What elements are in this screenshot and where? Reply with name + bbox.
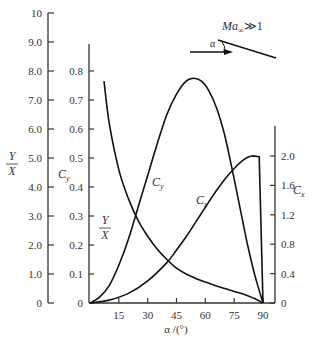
yx-tick-label: 9.0 — [28, 36, 42, 48]
cy-tick-label: 0.7 — [69, 94, 83, 106]
cx-axis: 00.40.81.21.62.0 — [270, 126, 295, 309]
yx-tick-label: 10 — [31, 7, 43, 19]
cx-tick-label: 0 — [281, 297, 287, 309]
yx-tick-label: 1.0 — [28, 268, 42, 280]
x-tick-label: 45 — [171, 309, 183, 321]
cy-tick-label: 0.6 — [69, 123, 83, 135]
x-tick-label: 30 — [142, 309, 154, 321]
svg-text:Y: Y — [9, 149, 17, 163]
cy-tick-label: 0.5 — [69, 152, 83, 164]
cy-axis-title: Cy — [58, 167, 70, 183]
cy-tick-label: 0.1 — [69, 268, 83, 280]
inset-flow-diagram: Ma∞≫1 α — [190, 19, 276, 58]
x-tick-label: 60 — [200, 309, 212, 321]
cy-tick-label: 0.2 — [69, 239, 83, 251]
cy-tick-label: 0.3 — [69, 210, 83, 222]
cy-axis: 00.10.20.30.40.50.60.70.8 — [69, 44, 94, 309]
cx-tick-label: 0.4 — [281, 268, 295, 280]
arrowhead-icon — [224, 49, 233, 55]
yx-tick-label: 0 — [37, 297, 43, 309]
yx-axis-title: Y X — [6, 149, 18, 178]
curve-cy — [90, 78, 263, 303]
x-axis-title: α /(°) — [164, 323, 188, 336]
cx-axis-title: Cx — [293, 183, 305, 199]
cy-tick-label: 0.4 — [69, 181, 83, 193]
cx-tick-label: 2.0 — [281, 150, 295, 162]
inset-mach-label: Ma∞≫1 — [221, 19, 263, 35]
yx-tick-label: 7.0 — [28, 94, 42, 106]
chart-canvas: 01.02.03.04.05.06.07.08.09.010 00.10.20.… — [0, 0, 320, 347]
yx-tick-label: 3.0 — [28, 210, 42, 222]
yx-tick-label: 2.0 — [28, 239, 42, 251]
x-tick-label: 75 — [229, 309, 241, 321]
cy-tick-label: 0.8 — [69, 65, 83, 77]
svg-text:X: X — [7, 164, 16, 178]
x-axis: 153045607590 — [89, 298, 275, 321]
curve-y-over-x — [104, 81, 263, 303]
curve-label-yx: Y X — [99, 213, 111, 242]
yx-axis: 01.02.03.04.05.06.07.08.09.010 — [28, 7, 54, 309]
cy-tick-label: 0 — [78, 297, 84, 309]
angle-arc-icon — [222, 42, 225, 52]
yx-tick-label: 4.0 — [28, 181, 42, 193]
svg-text:X: X — [100, 228, 109, 242]
cx-tick-label: 0.8 — [281, 238, 295, 250]
curve-label-cx: Cx — [196, 193, 208, 209]
x-tick-label: 15 — [113, 309, 125, 321]
yx-tick-label: 8.0 — [28, 65, 42, 77]
curve-label-cy: Cy — [152, 175, 164, 191]
plate-line-icon — [218, 40, 276, 58]
yx-tick-label: 6.0 — [28, 123, 42, 135]
curve-cx — [90, 156, 263, 303]
inset-alpha-label: α — [210, 38, 216, 49]
cx-tick-label: 1.2 — [281, 209, 295, 221]
x-tick-label: 90 — [258, 309, 270, 321]
svg-text:Y: Y — [102, 213, 110, 227]
yx-tick-label: 5.0 — [28, 152, 42, 164]
